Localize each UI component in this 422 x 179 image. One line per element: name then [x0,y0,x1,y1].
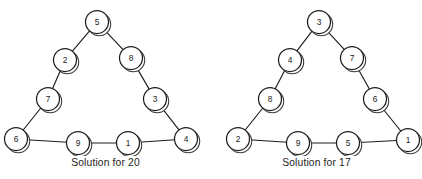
number-node: 4 [175,128,200,153]
magic-triangle-figure: 528736914 Solution for 20 347862951 Solu… [0,0,422,179]
caption-solution-20: Solution for 20 [0,156,211,170]
node-number-label: 7 [46,94,51,104]
node-number-label: 5 [95,17,100,27]
nodes-group-solution-17: 347862951 [227,11,422,157]
nodes-group-solution-20: 528736914 [5,11,200,157]
number-node: 6 [364,88,389,113]
caption-solution-17: Solution for 17 [211,156,422,170]
node-number-label: 6 [14,134,19,144]
triangle-edge [297,31,313,52]
node-number-label: 3 [153,94,158,104]
edges-group-solution-17 [245,30,401,143]
node-number-label: 9 [296,138,301,148]
node-number-label: 2 [236,134,241,144]
node-number-label: 5 [346,138,351,148]
node-number-label: 9 [76,138,81,148]
number-node: 4 [279,49,304,74]
triangle-edge [72,30,90,51]
triangle-edge [23,108,41,131]
triangle-edge [139,140,175,143]
number-node: 3 [144,88,169,113]
edges-group-solution-20 [23,30,180,143]
node-number-label: 8 [268,94,273,104]
triangle-edge [275,70,285,90]
triangle-edge [245,108,263,131]
node-number-label: 8 [129,53,134,63]
node-number-label: 1 [406,135,411,145]
number-node: 5 [337,132,362,157]
node-number-label: 4 [184,134,189,144]
number-node: 1 [117,132,142,157]
number-node: 9 [67,132,92,157]
number-node: 1 [397,129,422,154]
triangle-edge [249,140,287,143]
triangle-edge [27,140,67,143]
triangle-diagram-solution-17: 347862951 [211,0,422,156]
node-number-label: 6 [373,94,378,104]
triangle-edge [52,70,60,89]
node-number-label: 7 [350,53,355,63]
number-node: 8 [120,47,145,72]
node-number-label: 4 [288,55,293,65]
node-number-label: 2 [63,55,68,65]
diagram-panel-solution-17: 347862951 Solution for 17 [211,0,422,179]
number-node: 7 [341,47,366,72]
triangle-diagram-solution-20: 528736914 [0,0,211,156]
node-number-label: 1 [126,138,131,148]
node-number-label: 3 [317,17,322,27]
number-node: 2 [54,49,79,74]
triangle-edge [162,108,180,131]
number-node: 2 [227,128,252,153]
number-node: 9 [287,132,312,157]
triangle-edge [382,107,401,131]
number-node: 6 [5,128,30,153]
diagram-panel-solution-20: 528736914 Solution for 20 [0,0,211,179]
triangle-edge [359,141,397,143]
